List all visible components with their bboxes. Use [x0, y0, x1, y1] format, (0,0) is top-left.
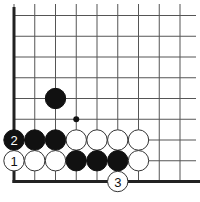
black-stone [45, 88, 65, 108]
black-stone-disc [87, 151, 107, 171]
white-stone-disc [66, 130, 86, 150]
black-stone: 2 [4, 130, 24, 150]
move-number-label: 1 [10, 154, 17, 169]
white-stone [66, 130, 86, 150]
white-stone [108, 130, 128, 150]
black-stone [45, 130, 65, 150]
star-point [73, 116, 79, 122]
white-stone-disc [25, 151, 45, 171]
white-stone-disc [108, 130, 128, 150]
white-stone-disc [128, 130, 148, 150]
move-number-label: 2 [10, 133, 17, 148]
black-stone-disc [66, 151, 86, 171]
white-stone [128, 151, 148, 171]
black-stone [108, 151, 128, 171]
white-stone [87, 130, 107, 150]
star-points [73, 116, 79, 122]
white-stone [128, 130, 148, 150]
black-stone [66, 151, 86, 171]
move-number-label: 3 [114, 175, 121, 190]
black-stone-disc [25, 130, 45, 150]
black-stone-disc [108, 151, 128, 171]
white-stone: 1 [4, 151, 24, 171]
go-board: 213 [0, 0, 200, 202]
white-stone-disc [87, 130, 107, 150]
black-stone [25, 130, 45, 150]
white-stone: 3 [108, 171, 128, 191]
black-stone [87, 151, 107, 171]
black-stone-disc [45, 88, 65, 108]
white-stone [25, 151, 45, 171]
white-stone [45, 151, 65, 171]
white-stone-disc [45, 151, 65, 171]
black-stone-disc [45, 130, 65, 150]
white-stone-disc [128, 151, 148, 171]
